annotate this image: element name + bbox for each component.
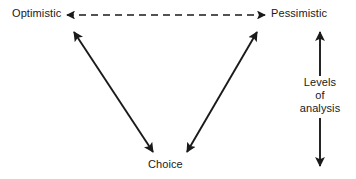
axis-label-line-2: of <box>291 89 349 102</box>
arrow-optimistic-choice <box>74 32 153 152</box>
node-label-pessimistic: Pessimistic <box>271 7 327 19</box>
node-label-choice: Choice <box>148 158 183 170</box>
axis-label-line-3: analysis <box>291 102 349 115</box>
node-label-optimistic: Optimistic <box>12 7 61 19</box>
diagram-canvas: Pessimistic --> Choice --> Choice --> Op… <box>0 0 356 179</box>
axis-label-levels-of-analysis: Levels of analysis <box>291 76 349 115</box>
axis-label-line-1: Levels <box>291 76 349 89</box>
arrow-pessimistic-choice <box>187 32 257 152</box>
